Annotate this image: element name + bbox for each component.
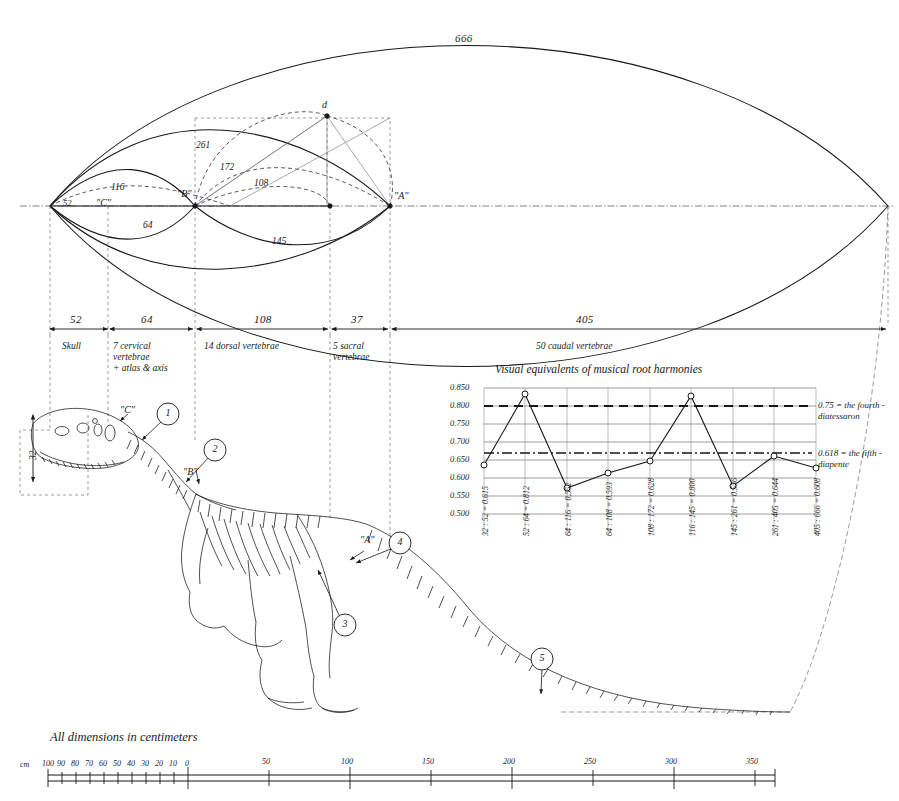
- segment-label-1: 7 cervical vertebrae + atlas & axis: [113, 341, 168, 374]
- chart-xtick-5: 116 : 145 = 0.800: [688, 479, 697, 536]
- ruler-unit: cm: [20, 760, 29, 769]
- point-label-d: d: [322, 99, 327, 110]
- arc-label-116: 116: [111, 182, 125, 192]
- ruler-right-tick-0: 50: [262, 757, 270, 766]
- skeleton-point-b: "B": [183, 466, 198, 477]
- ruler-right-tick-6: 350: [746, 757, 758, 766]
- segment-label-4: 50 caudal vertebrae: [536, 341, 613, 351]
- arc-label-666: 666: [455, 32, 473, 44]
- ruler-right-tick-2: 150: [422, 757, 434, 766]
- ruler-left-tick-2: 80: [71, 759, 79, 768]
- chart-xtick-7: 261 : 405 = 0.644: [771, 478, 780, 536]
- segment-value-2: 108: [254, 313, 272, 325]
- marker-1: 1: [158, 407, 178, 418]
- point-label-a: "A": [394, 190, 409, 201]
- marker-2: 2: [205, 443, 225, 454]
- ruler-left-tick-3: 70: [85, 759, 93, 768]
- ruler-right-tick-3: 200: [503, 757, 515, 766]
- segment-value-1: 64: [141, 313, 153, 325]
- ruler-left-tick-10: 0: [185, 759, 189, 768]
- chart-xtick-4: 108 : 172 = 0.628: [647, 478, 656, 536]
- chart-xtick-6: 145 : 261 = 0.556: [730, 478, 739, 536]
- ref-line-label-fifth: 0.618 = the fifth - diapente: [818, 448, 882, 470]
- marker-leaders: [120, 414, 542, 694]
- marker-4: 4: [390, 536, 410, 547]
- chart-ytick-2: 0.750: [450, 418, 469, 428]
- chart-ytick-6: 0.550: [450, 490, 469, 500]
- figure-canvas: 666 52 116 64 261 172 108 145 "C" "B" "A…: [0, 0, 899, 801]
- chart-xtick-8: 405 : 666 = 0.608: [813, 478, 822, 536]
- ruler-left-tick-5: 50: [113, 759, 121, 768]
- construction-arcs: [50, 112, 392, 206]
- chart-ytick-3: 0.700: [450, 436, 469, 446]
- arc-label-64: 64: [143, 220, 153, 230]
- ruler-left-tick-6: 40: [127, 759, 135, 768]
- chart-ytick-1: 0.800: [450, 400, 469, 410]
- figure-caption: All dimensions in centimeters: [50, 730, 198, 745]
- ruler-left-tick-9: 10: [169, 759, 177, 768]
- ruler: [48, 767, 775, 789]
- segment-label-3: 5 sacral vertebrae: [333, 341, 369, 363]
- point-label-b: "B": [177, 188, 192, 199]
- ruler-right-tick-5: 300: [665, 757, 677, 766]
- arc-label-108: 108: [254, 178, 268, 188]
- chart-xtick-2: 64 : 116 = 0.552: [564, 483, 573, 536]
- arc-label-145: 145: [272, 236, 286, 246]
- segment-value-0: 52: [70, 313, 82, 325]
- segment-label-2: 14 dorsal vertebrae: [204, 341, 279, 351]
- skull-height-label: 32: [28, 451, 38, 461]
- chart-xtick-3: 64 : 108 = 0.593: [605, 482, 614, 536]
- skeleton-point-c: "C": [120, 404, 135, 415]
- dimension-bar: [50, 114, 886, 329]
- chart-ytick-7: 0.500: [450, 508, 469, 518]
- chart-ytick-5: 0.600: [450, 472, 469, 482]
- chart-xtick-1: 52 : 64 = 0.812: [522, 486, 531, 536]
- ruler-right-tick-1: 100: [341, 757, 353, 766]
- arc-label-172: 172: [220, 162, 234, 172]
- ruler-left-tick-8: 20: [155, 759, 163, 768]
- point-label-c: "C": [96, 197, 111, 208]
- ref-line-label-fourth: 0.75 = the fourth - diatessaron: [818, 400, 885, 422]
- chart-ytick-4: 0.650: [450, 454, 469, 464]
- ruler-left-tick-1: 90: [57, 759, 65, 768]
- radial-lines: [195, 116, 390, 206]
- chart-xtick-0: 32 : 52 = 0.615: [481, 486, 490, 536]
- marker-5: 5: [532, 652, 552, 663]
- segment-label-0: Skull: [62, 341, 81, 351]
- chart-title: Visual equivalents of musical root harmo…: [495, 363, 702, 375]
- chart-ytick-0: 0.850: [450, 382, 469, 392]
- ruler-left-tick-0: 100: [42, 759, 54, 768]
- ruler-right-tick-4: 250: [584, 757, 596, 766]
- skeleton-point-a: "A": [360, 534, 375, 545]
- marker-3: 3: [335, 618, 355, 629]
- ruler-left-tick-7: 30: [141, 759, 149, 768]
- segment-value-4: 405: [576, 313, 594, 325]
- arc-label-261: 261: [196, 140, 210, 150]
- arc-label-52: 52: [63, 198, 72, 208]
- ruler-left-tick-4: 60: [99, 759, 107, 768]
- segment-value-3: 37: [351, 313, 363, 325]
